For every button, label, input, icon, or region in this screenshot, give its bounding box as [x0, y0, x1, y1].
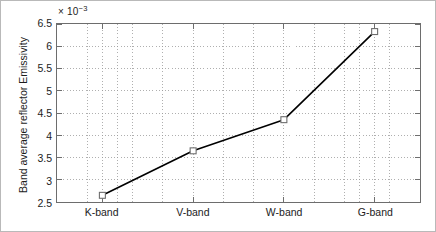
x-tick-label: W-band: [266, 206, 303, 218]
exponent-prefix: × 10: [58, 6, 79, 17]
data-point-marker: [190, 148, 196, 154]
y-tick-label-group: 2.533.544.555.566.5: [1, 23, 52, 203]
data-point-marker: [281, 117, 287, 123]
y-tick-label: 3.5: [6, 152, 52, 164]
x-tick-label: V-band: [176, 206, 209, 218]
x-tick-label-group: K-bandV-bandW-bandG-band: [56, 206, 421, 226]
axis-exponent-label: × 10−3: [58, 4, 88, 17]
y-tick-label: 4.5: [6, 107, 52, 119]
y-tick-label: 3: [6, 175, 52, 187]
y-tick-label: 6.5: [6, 17, 52, 29]
y-tick-label: 2.5: [6, 197, 52, 209]
x-tick-label: G-band: [358, 206, 393, 218]
data-series-layer: [57, 24, 420, 202]
y-tick-label: 6: [6, 40, 52, 52]
data-line: [102, 32, 374, 196]
plot-area: [56, 23, 421, 203]
y-tick-label: 5.5: [6, 62, 52, 74]
y-tick-label: 5: [6, 85, 52, 97]
figure-panel: × 10−3 Band average reflector Emissivity…: [0, 0, 436, 232]
data-point-marker: [99, 192, 105, 198]
y-tick-label: 4: [6, 130, 52, 142]
x-tick-label: K-band: [85, 206, 119, 218]
exponent-power: −3: [79, 4, 88, 13]
data-point-marker: [372, 29, 378, 35]
